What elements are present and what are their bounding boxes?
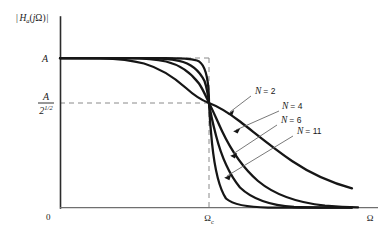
series-label-n2: N= 2 [254,86,276,96]
series-label-n11: N= 11 [296,126,322,136]
x-tick-label-origin: 0 [46,212,51,222]
y-tick-label-A: A [41,53,49,64]
plot-canvas: |Ha(jΩ)| N= 2 N= 4 N= 6 N= 11 A A 21/2 0… [0,0,384,235]
y-tick-label-half-denominator: 21/2 [39,104,53,116]
leader-line-n2 [230,96,251,112]
series-label-n4: N= 4 [281,101,303,111]
series-label-n6: N= 6 [280,115,302,125]
y-axis-label: |Ha(jΩ)| [16,13,49,24]
arrowhead-n4 [233,128,240,133]
x-tick-label-cutoff: Ωc [204,213,214,225]
y-tick-label-half-numerator: A [42,91,50,102]
leader-line-n4 [236,111,279,130]
butterworth-magnitude-response-figure: |Ha(jΩ)| N= 2 N= 4 N= 6 N= 11 A A 21/2 0… [0,0,384,235]
x-axis-label: Ω [367,213,374,223]
